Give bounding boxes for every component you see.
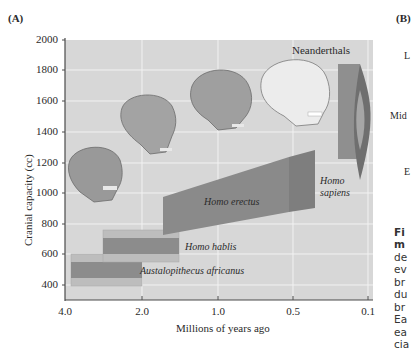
x-tick-0.1: 0.1 bbox=[353, 305, 383, 317]
x-tick-1.0: 1.0 bbox=[203, 305, 233, 317]
caption-line-9: ea bbox=[394, 326, 407, 338]
label-neanderthals: Neanderthals bbox=[292, 44, 350, 56]
label-homo-hablis: Homo hablis bbox=[185, 241, 236, 252]
sapiens-early-band bbox=[289, 150, 315, 212]
x-tick-2.0: 2.0 bbox=[127, 305, 157, 317]
panel-b-row-late: L bbox=[404, 50, 410, 61]
x-tick-4.0: 4.0 bbox=[50, 305, 80, 317]
label-homo-sapiens-1: Homo bbox=[320, 175, 344, 186]
caption-line-5: br bbox=[394, 276, 405, 288]
label-homo-sapiens-2: sapiens bbox=[320, 187, 350, 198]
caption-line-6: du bbox=[394, 288, 407, 300]
x-tick-0.5: 0.5 bbox=[278, 305, 308, 317]
caption-line-3: de bbox=[394, 251, 407, 263]
caption-line-8: Ea bbox=[394, 313, 407, 325]
caption-line-1: Fi bbox=[394, 226, 405, 238]
label-homo-erectus: Homo erectus bbox=[204, 196, 259, 207]
label-africanus: Austalopithecus africanus bbox=[140, 265, 244, 276]
caption-line-2: m bbox=[394, 238, 405, 250]
cranial-capacity-plot bbox=[0, 0, 413, 354]
panel-b-row-middle: Mid bbox=[390, 110, 407, 121]
hablis-core bbox=[103, 238, 179, 254]
caption-line-7: br bbox=[394, 301, 405, 313]
x-axis-title: Millions of years ago bbox=[176, 322, 270, 334]
panel-b-row-early: E bbox=[404, 166, 410, 177]
caption-line-10: cia bbox=[394, 338, 409, 350]
caption-line-4: ev bbox=[394, 263, 407, 275]
panel-b-label: (B) bbox=[396, 12, 411, 24]
africanus-core bbox=[71, 262, 142, 278]
